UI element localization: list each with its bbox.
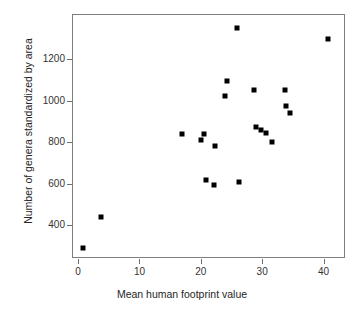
data-point	[258, 128, 263, 133]
data-point	[269, 140, 274, 145]
data-point	[212, 182, 217, 187]
y-axis-tick-mark	[67, 184, 72, 185]
y-axis-tick-mark	[67, 101, 72, 102]
x-axis-tick-label: 10	[124, 267, 154, 277]
data-point	[223, 94, 228, 99]
data-point	[283, 103, 288, 108]
data-point	[98, 215, 103, 220]
data-point	[199, 138, 204, 143]
data-point	[237, 179, 242, 184]
data-point	[288, 111, 293, 116]
data-point	[251, 87, 256, 92]
data-point	[326, 36, 331, 41]
x-axis-tick-mark	[262, 259, 263, 264]
x-axis-tick-label: 20	[186, 267, 216, 277]
data-point	[213, 144, 218, 149]
data-point	[80, 246, 85, 251]
plot-area-frame	[72, 14, 345, 258]
scatter-plot-figure: 40060080010001200 010203040 Mean human f…	[0, 0, 364, 314]
data-point	[179, 131, 184, 136]
x-axis-tick-mark	[324, 259, 325, 264]
data-points-layer	[73, 15, 344, 257]
x-axis-tick-mark	[78, 259, 79, 264]
data-point	[282, 87, 287, 92]
x-axis-tick-label: 0	[63, 267, 93, 277]
y-axis-tick-mark	[67, 142, 72, 143]
y-axis-title: Number of genera standardized by area	[22, 11, 34, 251]
x-axis-tick-label: 30	[247, 267, 277, 277]
y-axis-tick-mark	[67, 59, 72, 60]
data-point	[224, 79, 229, 84]
x-axis-tick-mark	[139, 259, 140, 264]
x-axis-title: Mean human footprint value	[0, 288, 364, 300]
y-axis-tick-mark	[67, 225, 72, 226]
data-point	[235, 26, 240, 31]
x-axis-tick-label: 40	[309, 267, 339, 277]
x-axis-tick-mark	[201, 259, 202, 264]
data-point	[264, 130, 269, 135]
data-point	[201, 131, 206, 136]
data-point	[203, 177, 208, 182]
